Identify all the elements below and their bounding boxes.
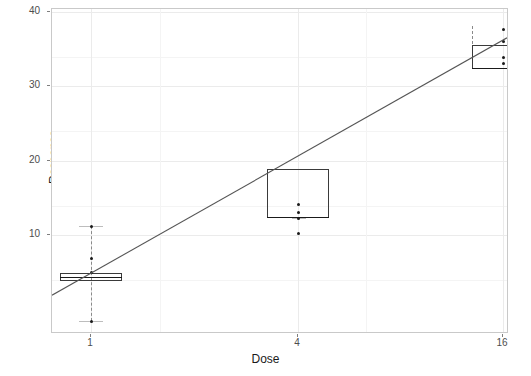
y-tick-label-40: 40 — [0, 6, 40, 16]
y-tick-mark-20 — [47, 160, 50, 161]
x-tick-label-1: 1 — [70, 338, 110, 348]
x-axis-title: Dose — [0, 352, 531, 366]
y-tick-label-20: 20 — [0, 155, 40, 165]
y-tick-mark-10 — [47, 234, 50, 235]
chart-root: Response 40 30 20 10 1 4 16 Dose — [0, 0, 531, 376]
y-tick-label-30: 30 — [0, 80, 40, 90]
plot-layer — [52, 9, 507, 332]
y-tick-mark-30 — [47, 85, 50, 86]
y-tick-mark-40 — [47, 11, 50, 12]
x-tick-mark-16 — [502, 334, 503, 337]
plot-panel — [51, 8, 508, 333]
x-tick-mark-1 — [90, 334, 91, 337]
x-tick-mark-4 — [297, 334, 298, 337]
x-tick-label-4: 4 — [277, 338, 317, 348]
regression-fit-line — [52, 9, 507, 332]
y-tick-label-10: 10 — [0, 229, 40, 239]
x-tick-label-16: 16 — [482, 338, 522, 348]
